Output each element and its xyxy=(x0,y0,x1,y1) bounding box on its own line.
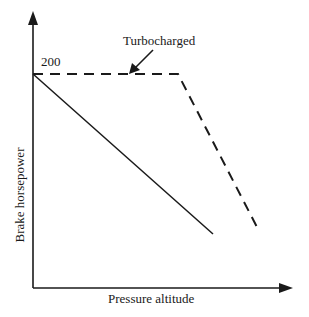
y-value-label: 200 xyxy=(41,54,61,69)
turbocharged-series-line xyxy=(33,74,259,231)
y-axis-arrow-icon xyxy=(28,11,38,25)
horsepower-altitude-diagram: 200 Turbocharged Pressure altitude Brake… xyxy=(0,0,309,317)
x-axis-label: Pressure altitude xyxy=(108,291,195,306)
x-axis-arrow-icon xyxy=(279,283,293,293)
turbocharged-annotation: Turbocharged xyxy=(123,33,196,48)
annotation-arrow xyxy=(135,50,153,68)
y-axis-label: Brake horsepower xyxy=(12,147,27,243)
solid-series-line xyxy=(33,74,213,234)
